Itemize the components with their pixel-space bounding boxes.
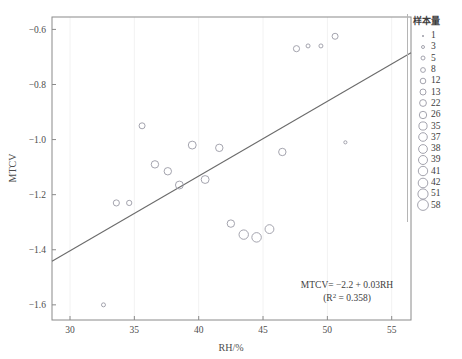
y-tick-label: −1.4 bbox=[29, 245, 46, 255]
x-axis-tick-labels: 303540455055 bbox=[65, 325, 396, 335]
x-tick-label: 40 bbox=[194, 325, 204, 335]
data-point bbox=[113, 200, 119, 206]
legend-item-label: 38 bbox=[431, 143, 441, 154]
data-point bbox=[265, 225, 274, 234]
legend-marker-circle-icon bbox=[415, 75, 430, 87]
legend-item-label: 13 bbox=[431, 87, 441, 98]
x-tick-label: 55 bbox=[387, 325, 397, 335]
data-point bbox=[201, 176, 209, 184]
data-point bbox=[252, 233, 261, 242]
regression-r-squared: (R2 = 0.358) bbox=[323, 292, 371, 305]
data-point bbox=[216, 144, 223, 151]
x-tick-label: 45 bbox=[258, 325, 268, 335]
legend-item[interactable]: 58 bbox=[415, 199, 462, 210]
data-point bbox=[127, 200, 132, 205]
legend-marker-circle-icon bbox=[415, 143, 430, 155]
legend-marker-circle-icon bbox=[415, 188, 430, 200]
regression-equation: MTCV= −2.2 + 0.03RH bbox=[301, 280, 393, 290]
y-tick-label: −1.0 bbox=[29, 135, 46, 145]
x-axis-title: RH/% bbox=[219, 342, 244, 353]
y-axis-ticks bbox=[52, 29, 56, 304]
x-tick-label: 30 bbox=[65, 325, 75, 335]
y-tick-label: −1.2 bbox=[29, 190, 46, 200]
legend-item-label: 3 bbox=[431, 41, 436, 52]
legend-item-label: 42 bbox=[431, 177, 441, 188]
grid-lines bbox=[70, 17, 392, 320]
legend-marker-circle-icon bbox=[415, 64, 430, 76]
legend-item-label: 58 bbox=[431, 200, 441, 211]
legend-item[interactable]: 26 bbox=[415, 109, 462, 120]
legend-title: 样本量 bbox=[413, 14, 462, 27]
legend-item-label: 22 bbox=[431, 98, 441, 109]
legend-item[interactable]: 5 bbox=[415, 53, 462, 64]
legend-marker-circle-icon bbox=[415, 177, 430, 189]
data-point bbox=[239, 230, 248, 239]
data-point bbox=[306, 44, 310, 48]
legend-marker-circle-icon bbox=[415, 97, 430, 109]
data-point bbox=[332, 33, 338, 39]
legend-marker-circle-icon bbox=[415, 131, 430, 143]
plot-frame bbox=[52, 17, 411, 320]
legend-marker-circle-icon bbox=[415, 52, 430, 64]
legend-item-label: 51 bbox=[431, 188, 441, 199]
legend-item[interactable]: 8 bbox=[415, 64, 462, 75]
legend-marker-circle-icon bbox=[415, 154, 430, 166]
legend-item-label: 8 bbox=[431, 64, 436, 75]
legend-item[interactable]: 37 bbox=[415, 132, 462, 143]
legend-marker-circle-icon bbox=[415, 41, 430, 53]
y-tick-label: −0.6 bbox=[29, 25, 46, 35]
legend-marker-circle-icon bbox=[415, 165, 430, 177]
legend-item[interactable]: 13 bbox=[415, 86, 462, 97]
legend-item-label: 1 bbox=[431, 30, 436, 41]
legend-item[interactable]: 39 bbox=[415, 154, 462, 165]
y-axis-tick-labels: −0.6−0.8−1.0−1.2−1.4−1.6 bbox=[29, 25, 46, 310]
data-point bbox=[293, 46, 299, 52]
legend-marker-circle-icon bbox=[415, 109, 430, 121]
legend-item-label: 39 bbox=[431, 154, 441, 165]
data-point bbox=[164, 168, 171, 175]
legend-item[interactable]: 3 bbox=[415, 41, 462, 52]
legend-item[interactable]: 38 bbox=[415, 143, 462, 154]
data-point bbox=[151, 161, 158, 168]
legend-item[interactable]: 51 bbox=[415, 188, 462, 199]
legend-item[interactable]: 41 bbox=[415, 166, 462, 177]
legend-item-label: 35 bbox=[431, 121, 441, 132]
regression-line bbox=[52, 53, 411, 262]
x-tick-label: 50 bbox=[323, 325, 333, 335]
legend-marker-circle-icon bbox=[415, 120, 430, 132]
data-point bbox=[319, 44, 323, 48]
legend-item[interactable]: 12 bbox=[415, 75, 462, 86]
legend-item-label: 12 bbox=[431, 75, 441, 86]
plot-canvas: 303540455055 −0.6−0.8−1.0−1.2−1.4−1.6 RH… bbox=[0, 0, 462, 359]
legend: 样本量 1358121322263537383941425158 bbox=[407, 14, 462, 211]
legend-marker-circle-icon bbox=[415, 30, 430, 42]
data-point bbox=[279, 148, 286, 155]
data-point bbox=[344, 141, 347, 144]
legend-item-label: 5 bbox=[431, 53, 436, 64]
y-axis-title: MTCV bbox=[7, 153, 18, 183]
scatter-chart: 303540455055 −0.6−0.8−1.0−1.2−1.4−1.6 RH… bbox=[0, 0, 462, 359]
x-tick-label: 35 bbox=[130, 325, 140, 335]
legend-item[interactable]: 42 bbox=[415, 177, 462, 188]
legend-marker-circle-icon bbox=[415, 199, 430, 211]
legend-item-label: 37 bbox=[431, 132, 441, 143]
data-point bbox=[188, 141, 196, 149]
data-points bbox=[101, 33, 346, 307]
x-axis-ticks bbox=[70, 316, 392, 320]
legend-item[interactable]: 35 bbox=[415, 120, 462, 131]
legend-item-label: 41 bbox=[431, 166, 441, 177]
data-point bbox=[227, 220, 234, 227]
legend-marker-circle-icon bbox=[415, 86, 430, 98]
legend-items: 1358121322263537383941425158 bbox=[407, 30, 462, 211]
legend-item[interactable]: 1 bbox=[415, 30, 462, 41]
y-tick-label: −0.8 bbox=[29, 80, 46, 90]
data-point bbox=[139, 123, 145, 129]
data-point bbox=[101, 303, 105, 307]
legend-item-label: 26 bbox=[431, 109, 441, 120]
legend-item[interactable]: 22 bbox=[415, 98, 462, 109]
y-tick-label: −1.6 bbox=[29, 300, 46, 310]
